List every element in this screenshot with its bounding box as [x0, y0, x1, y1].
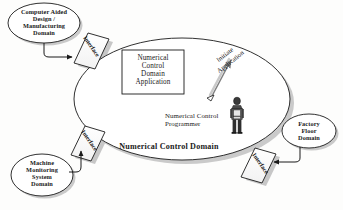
application-box-line-1: Numerical: [122, 54, 184, 62]
application-box-line-3: Domain: [122, 70, 184, 78]
application-box-label: Numerical Control Domain Application: [122, 54, 184, 86]
mms-domain-line-1: Machine: [13, 159, 71, 166]
factory-floor-line-1: Factory: [283, 120, 335, 127]
mms-domain-line-2: Monitoring: [13, 166, 71, 173]
diagram-canvas: Computer Aided Design / Manufacturing Do…: [0, 0, 343, 210]
mms-domain-line-4: Domain: [13, 180, 71, 187]
programmer-line-1: Numerical Control: [165, 112, 237, 120]
machine-monitoring-system-domain-label: Machine Monitoring System Domain: [13, 159, 71, 187]
application-box-line-2: Control: [122, 62, 184, 70]
numerical-control-domain-label: Numerical Control Domain: [103, 142, 235, 151]
cad-cam-domain-line-3: Manufacturing: [10, 22, 78, 29]
application-box-line-4: Application: [122, 78, 184, 86]
person-icon: [228, 96, 246, 136]
programmer-line-2: Programmer: [165, 120, 237, 128]
factory-floor-line-2: Floor: [283, 127, 335, 134]
cad-cam-domain-label: Computer Aided Design / Manufacturing Do…: [10, 8, 78, 36]
cad-cam-domain-line-2: Design /: [10, 15, 78, 22]
cad-cam-domain-line-4: Domain: [10, 29, 78, 36]
factory-floor-line-3: Domain: [283, 134, 335, 141]
numerical-control-programmer-label: Numerical Control Programmer: [165, 112, 237, 127]
cad-cam-domain-line-1: Computer Aided: [10, 8, 78, 15]
factory-floor-domain-label: Factory Floor Domain: [283, 120, 335, 141]
mms-domain-line-3: System: [13, 173, 71, 180]
